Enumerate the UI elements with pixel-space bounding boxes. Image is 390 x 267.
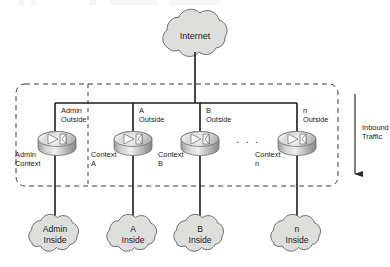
a-inside-label-line2: Inside (122, 235, 145, 245)
internet-label: Internet (180, 31, 211, 41)
b-inside-label-line2: Inside (189, 235, 212, 245)
a-inside-label-line1: A (130, 224, 136, 234)
admin-inside-label-line2: Inside (44, 235, 67, 245)
context-a-label-line1: Context (91, 150, 116, 159)
context-n: n Outside Context n n Inside (255, 103, 328, 251)
context-a-outside-label-line2: Outside (139, 115, 164, 124)
admin-inside-cloud: Admin Inside (29, 214, 79, 251)
context-admin-firewall-icon (38, 132, 76, 156)
context-admin-outside-label-line1: Admin (61, 106, 82, 115)
context-a-outside-label-line1: A (139, 106, 144, 115)
n-inside-cloud: n Inside (271, 214, 321, 251)
inbound-traffic-label-line1: Inbound (362, 123, 389, 132)
context-b-outside-label-line2: Outside (206, 115, 231, 124)
n-inside-label-line2: Inside (286, 235, 309, 245)
context-b-label-line2: B (158, 159, 163, 168)
admin-inside-label-line1: Admin (43, 224, 68, 234)
inbound-traffic-label-line2: Traffic (362, 132, 382, 141)
a-inside-cloud: A Inside (107, 214, 157, 251)
context-a-label-line2: A (91, 159, 96, 168)
context-admin-label-line2: Context (15, 159, 40, 168)
context-a: A Outside Context A A Inside (91, 103, 164, 251)
context-n-label-line2: n (255, 159, 259, 168)
b-inside-label-line1: B (197, 224, 203, 234)
b-inside-cloud: B Inside (174, 214, 224, 251)
context-admin-label-line1: Admin (15, 150, 36, 159)
context-b-outside-label-line1: B (206, 106, 211, 115)
context-n-outside-label-line1: n (303, 106, 307, 115)
network-topology-diagram: Internet Admin Outside Admin Context (0, 0, 390, 267)
context-admin-outside-label-line2: Outside (61, 115, 86, 124)
context-admin: Admin Outside Admin Context Admin Inside (15, 103, 86, 251)
internet-cloud: Internet (163, 9, 227, 56)
context-n-label-line1: Context (255, 150, 280, 159)
diagram-canvas: Internet Admin Outside Admin Context (0, 0, 390, 267)
context-b-firewall-icon (181, 132, 219, 156)
context-ellipsis: . . . (236, 133, 259, 145)
context-b: B Outside Context B B Inside (158, 103, 231, 251)
context-a-firewall-icon (114, 132, 152, 156)
n-inside-label-line1: n (295, 224, 300, 234)
context-b-label-line1: Context (158, 150, 183, 159)
inbound-traffic-annotation: Inbound Traffic (355, 94, 389, 174)
context-n-outside-label-line2: Outside (303, 115, 328, 124)
context-n-firewall-icon (278, 132, 316, 156)
